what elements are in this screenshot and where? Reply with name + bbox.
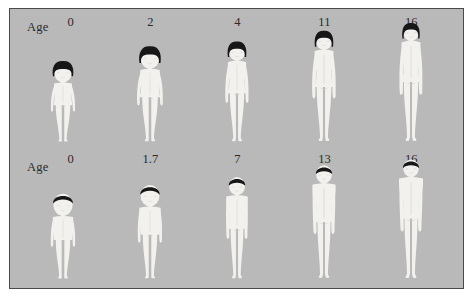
human-figure-female [369,21,453,143]
age-label: 11 [282,15,366,30]
age-label: 2 [108,15,192,30]
growth-row-female: Age 0241116 [10,9,463,149]
human-figure-male [108,183,192,280]
figure-cell-male-age-7: 7 [195,152,279,280]
age-label: 1.7 [108,152,192,167]
figure-cell-male-age-1.7: 1.7 [108,152,192,280]
figure-cell-male-age-16: 16 [369,152,453,280]
figure-cell-female-age-11: 11 [282,15,366,143]
figure-cell-female-age-16: 16 [369,15,453,143]
human-figure-male [195,175,279,280]
human-figure-male [369,157,453,280]
human-figure-female [108,45,192,143]
growth-row-male: Age 01.771316 [10,149,463,289]
human-figure-female [195,40,279,143]
age-label: 4 [195,15,279,30]
human-figure-female [282,29,366,143]
figure-cell-female-age-0: 0 [21,15,105,143]
figure-cell-male-age-13: 13 [282,152,366,280]
growth-chart-plate: Age 0241116 Age 01.771316 [9,8,464,289]
human-figure-male [282,163,366,280]
figure-cell-female-age-2: 2 [108,15,192,143]
age-label: 7 [195,152,279,167]
human-figure-male [21,192,105,280]
human-figure-female [21,60,105,143]
figure-cell-male-age-0: 0 [21,152,105,280]
figure-cell-female-age-4: 4 [195,15,279,143]
